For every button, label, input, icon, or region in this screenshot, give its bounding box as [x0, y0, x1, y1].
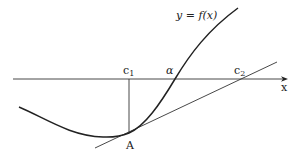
- newton-method-diagram: x y = f(x) c1 α c2 A: [0, 0, 299, 155]
- alpha-label: α: [166, 64, 174, 77]
- x-axis-label: x: [281, 81, 288, 94]
- point-a-label: A: [125, 139, 135, 152]
- c2-label: c2: [234, 64, 245, 78]
- curve-label: y = f(x): [175, 9, 217, 22]
- c1-label: c1: [123, 64, 134, 78]
